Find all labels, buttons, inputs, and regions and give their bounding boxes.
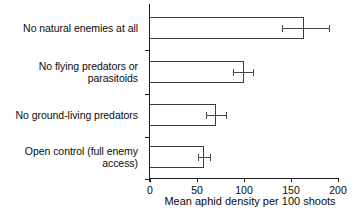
y-tick-mark [145, 179, 149, 180]
category-label-line: parasitoids [0, 72, 138, 84]
y-tick-mark [145, 94, 149, 95]
category-label: Open control (full enemyaccess) [0, 145, 138, 169]
error-bar-line [282, 28, 329, 29]
bar [150, 146, 204, 168]
category-label: No ground-living predators [0, 109, 138, 121]
x-tick-mark [338, 178, 339, 182]
category-label-line: access) [0, 157, 138, 169]
x-axis-title: Mean aphid density per 100 shoots [150, 195, 350, 207]
error-bar-cap [233, 69, 234, 76]
error-bar-line [198, 157, 210, 158]
error-bar-cap [206, 112, 207, 119]
category-label-line: No ground-living predators [0, 109, 138, 121]
y-tick-mark [145, 137, 149, 138]
error-bar-cap [210, 154, 211, 161]
plot-area: 050100150200 [150, 8, 338, 178]
x-tick-mark [291, 178, 292, 182]
error-bar-line [206, 115, 226, 116]
category-label: No flying predators orparasitoids [0, 60, 138, 84]
chart-figure: No natural enemies at allNo flying preda… [0, 0, 362, 220]
error-bar-line [233, 72, 254, 73]
category-label-line: No natural enemies at all [0, 22, 138, 34]
y-tick-mark [145, 50, 149, 51]
category-label-line: No flying predators or [0, 60, 138, 72]
error-bar-cap [329, 25, 330, 32]
error-bar-cap [226, 112, 227, 119]
error-bar-cap [282, 25, 283, 32]
error-bar-cap [198, 154, 199, 161]
x-tick-mark [150, 178, 151, 182]
bar [150, 61, 244, 83]
x-tick-mark [197, 178, 198, 182]
category-label-line: Open control (full enemy [0, 145, 138, 157]
category-axis-labels: No natural enemies at allNo flying preda… [0, 0, 144, 178]
category-label: No natural enemies at all [0, 22, 138, 34]
error-bar-cap [253, 69, 254, 76]
x-tick-mark [244, 178, 245, 182]
